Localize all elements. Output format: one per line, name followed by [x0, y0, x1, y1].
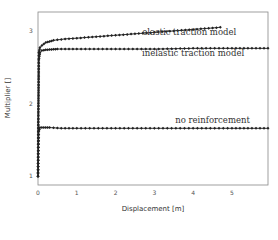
diamond-marker-icon [149, 127, 152, 130]
diamond-marker-icon [200, 127, 203, 130]
diamond-marker-icon [37, 168, 40, 171]
diamond-marker-icon [179, 127, 182, 130]
diamond-marker-icon [110, 127, 113, 130]
diamond-marker-icon [80, 48, 83, 51]
diamond-marker-icon [101, 127, 104, 130]
diamond-marker-icon [71, 37, 74, 40]
diamond-marker-icon [84, 48, 87, 51]
annotations: elastic traction modelinelastic traction… [142, 27, 250, 126]
diamond-marker-icon [91, 36, 94, 39]
diamond-marker-icon [37, 91, 40, 94]
diamond-marker-icon [88, 127, 91, 130]
diamond-marker-icon [64, 37, 67, 40]
y-tick-label: 2 [29, 100, 33, 107]
diamond-marker-icon [209, 127, 212, 130]
diamond-marker-icon [95, 35, 98, 38]
x-tick-label: 2 [114, 189, 118, 196]
diamond-marker-icon [192, 127, 195, 130]
diamond-marker-icon [196, 127, 199, 130]
diamond-marker-icon [75, 127, 78, 130]
diamond-marker-icon [48, 126, 51, 129]
diamond-marker-icon [267, 47, 270, 50]
diamond-marker-icon [110, 34, 113, 37]
x-tick-label: 0 [36, 189, 40, 196]
diamond-marker-icon [110, 48, 113, 51]
diamond-marker-icon [258, 47, 261, 50]
diamond-marker-icon [118, 127, 121, 130]
diamond-marker-icon [75, 48, 78, 51]
diamond-marker-icon [242, 127, 245, 130]
diamond-marker-icon [258, 127, 261, 130]
diamond-marker-icon [101, 48, 104, 51]
diamond-marker-icon [234, 127, 237, 130]
diamond-marker-icon [254, 127, 257, 130]
diamond-marker-icon [60, 48, 63, 51]
diamond-marker-icon [153, 127, 156, 130]
diamond-marker-icon [60, 38, 63, 41]
diamond-marker-icon [56, 127, 59, 130]
diamond-marker-icon [123, 48, 126, 51]
diamond-marker-icon [88, 48, 91, 51]
diamond-marker-icon [68, 48, 71, 51]
diamond-marker-icon [97, 127, 100, 130]
diamond-marker-icon [37, 172, 40, 175]
diamond-marker-icon [71, 127, 74, 130]
diamond-marker-icon [118, 48, 121, 51]
x-axis-label: Displacement [m] [122, 205, 185, 213]
diamond-marker-icon [140, 127, 143, 130]
diamond-marker-icon [246, 127, 249, 130]
diamond-marker-icon [127, 48, 130, 51]
x-tick-label: 3 [152, 189, 156, 196]
diamond-marker-icon [106, 34, 109, 37]
diamond-marker-icon [64, 127, 67, 130]
diamond-marker-icon [83, 36, 86, 39]
diamond-marker-icon [157, 127, 160, 130]
diamond-marker-icon [105, 127, 108, 130]
y-tick-label: 3 [29, 27, 33, 34]
diamond-marker-icon [267, 127, 270, 130]
diamond-marker-icon [136, 127, 139, 130]
diamond-marker-icon [230, 127, 233, 130]
series-annotation: no reinforcement [175, 115, 250, 125]
diamond-marker-icon [205, 127, 208, 130]
diamond-marker-icon [131, 48, 134, 51]
diamond-marker-icon [144, 127, 147, 130]
diamond-marker-icon [102, 35, 105, 38]
series-annotation: elastic traction model [142, 27, 236, 37]
diamond-marker-icon [123, 127, 126, 130]
diamond-marker-icon [68, 127, 71, 130]
diamond-marker-icon [56, 48, 59, 51]
diamond-marker-icon [37, 162, 40, 165]
diamond-marker-icon [93, 127, 96, 130]
diamond-marker-icon [71, 48, 74, 51]
diamond-marker-icon [52, 126, 55, 129]
diamond-marker-icon [262, 47, 265, 50]
diamond-marker-icon [238, 127, 241, 130]
diamond-marker-icon [56, 38, 59, 41]
diamond-marker-icon [80, 127, 83, 130]
diamond-marker-icon [60, 127, 63, 130]
y-axis-ticks: 123 [29, 27, 33, 179]
y-axis-label: Multiplier [] [4, 78, 12, 119]
diamond-marker-icon [187, 127, 190, 130]
diamond-marker-icon [136, 48, 139, 51]
series-no-reinforcement [37, 126, 270, 178]
diamond-marker-icon [137, 32, 140, 35]
diamond-marker-icon [64, 48, 67, 51]
x-tick-label: 4 [191, 189, 195, 196]
diamond-marker-icon [37, 159, 40, 162]
diamond-marker-icon [37, 175, 40, 178]
diamond-marker-icon [37, 165, 40, 168]
diamond-marker-icon [226, 127, 229, 130]
diamond-marker-icon [84, 127, 87, 130]
diamond-marker-icon [133, 32, 136, 35]
y-tick-label: 1 [29, 172, 33, 179]
diamond-marker-icon [105, 48, 108, 51]
diamond-marker-icon [122, 33, 125, 36]
series-annotation: inelastic traction model [142, 48, 244, 58]
diamond-marker-icon [218, 127, 221, 130]
diamond-marker-icon [222, 127, 225, 130]
diamond-marker-icon [127, 127, 130, 130]
diamond-marker-icon [114, 48, 117, 51]
x-tick-label: 1 [75, 189, 79, 196]
